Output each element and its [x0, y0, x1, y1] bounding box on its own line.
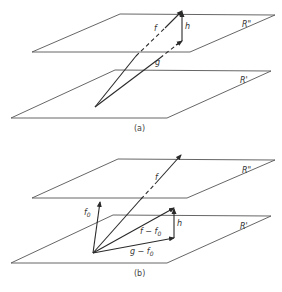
panel-a: f g h R" R' (a) — [11, 11, 275, 133]
upper-plane-a — [32, 14, 275, 52]
vector-g-a — [95, 41, 182, 107]
label-upper-plane-b: R" — [242, 166, 251, 175]
label-upper-plane-a: R" — [242, 20, 251, 29]
label-f-minus-f0-b: f − f0 — [140, 227, 161, 237]
label-f-a: f — [154, 24, 158, 33]
vector-f-a — [95, 11, 182, 107]
label-g-minus-f0-b: g − f0 — [130, 247, 154, 257]
vector-f0-b — [93, 202, 100, 253]
label-g-a: g — [155, 58, 160, 67]
label-f0-b: f0 — [84, 208, 91, 218]
panel-b: f f0 f − f0 g − f0 h R" R' (b) — [11, 155, 275, 278]
label-lower-plane-b: R' — [240, 222, 248, 231]
vector-planes-figure: f g h R" R' (a) f f0 f − f0 — [0, 0, 282, 292]
label-lower-plane-a: R' — [240, 76, 248, 85]
caption-a: (a) — [134, 124, 145, 133]
upper-plane-b — [32, 159, 275, 198]
label-h-b: h — [177, 219, 182, 228]
label-h-a: h — [185, 22, 190, 31]
lower-plane-a — [11, 70, 271, 118]
vector-f-b — [93, 155, 181, 253]
caption-b: (b) — [134, 269, 145, 278]
